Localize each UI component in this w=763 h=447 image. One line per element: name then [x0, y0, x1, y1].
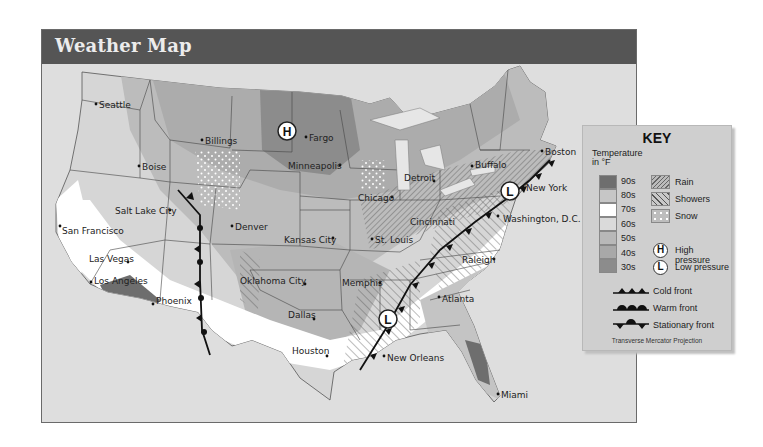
snow-pattern-icon [651, 209, 670, 223]
city-label: Dallas [288, 310, 316, 320]
city-label: Houston [292, 346, 329, 356]
label-90s: 90s [621, 176, 636, 186]
city-label: Denver [235, 222, 268, 232]
city-label: Buffalo [475, 160, 507, 170]
city-label: Fargo [309, 133, 334, 143]
city-label: Atlanta [442, 294, 474, 304]
swatch-90s [599, 175, 617, 189]
label-snow: Snow [675, 211, 698, 221]
city-label: Chicago [358, 193, 395, 203]
high-pressure-center: H [278, 122, 296, 140]
city-label: New York [526, 183, 568, 193]
swatch-70s [599, 203, 617, 217]
swatch-30s [599, 259, 617, 273]
city-label: Salt Lake City [115, 206, 177, 216]
low-pressure-center-northeast: L [501, 182, 519, 200]
svg-text:H: H [283, 125, 292, 139]
swatch-50s [599, 231, 617, 245]
rain-pattern-icon [651, 175, 670, 189]
label-70s: 70s [621, 204, 636, 214]
swatch-60s [599, 217, 617, 231]
label-low-pressure: Low pressure [675, 262, 729, 272]
svg-text:L: L [384, 313, 391, 327]
label-80s: 80s [621, 190, 636, 200]
label-rain: Rain [675, 177, 694, 187]
city-label: Billings [205, 136, 238, 146]
low-pressure-icon: L [653, 260, 668, 275]
city-label: St. Louis [375, 235, 414, 245]
swatch-40s [599, 245, 617, 259]
high-pressure-icon: H [653, 243, 668, 258]
city-label: Minneapolis [288, 161, 342, 171]
city-label: New Orleans [387, 353, 445, 363]
label-30s: 30s [621, 262, 636, 272]
city-label: Miami [501, 390, 528, 400]
city-label: Seattle [99, 100, 131, 110]
city-label: Boston [545, 147, 576, 157]
label-showers: Showers [675, 194, 710, 204]
label-50s: 50s [621, 233, 636, 243]
projection-note: Transverse Mercator Projection [583, 337, 731, 344]
svg-text:L: L [506, 185, 513, 199]
stationary-front-icon [613, 317, 649, 331]
key-temperature-heading: Temperature in °F [592, 149, 652, 167]
key-title: KEY [583, 130, 731, 146]
city-label: Detroit [404, 173, 436, 183]
city-label: Las Vegas [89, 254, 134, 264]
city-label: Kansas City [284, 235, 337, 245]
label-stationary-front: Stationary front [653, 320, 714, 330]
label-60s: 60s [621, 219, 636, 229]
city-label: Raleigh [462, 255, 496, 265]
map-key: KEY Temperature in °F 90s 80s 70s 60s 50… [582, 125, 732, 351]
city-label: Memphis [342, 278, 383, 288]
low-pressure-center-south: L [379, 310, 397, 328]
city-label: Washington, D.C. [503, 214, 581, 224]
city-label: Cincinnati [410, 217, 455, 227]
label-40s: 40s [621, 248, 636, 258]
city-label: Boise [142, 162, 167, 172]
cold-front-icon [613, 285, 649, 295]
label-cold-front: Cold front [653, 286, 692, 296]
city-label: San Francisco [62, 226, 124, 236]
swatch-80s [599, 189, 617, 203]
warm-front-icon [613, 302, 649, 312]
label-warm-front: Warm front [653, 303, 697, 313]
city-label: Oklahoma City [240, 276, 307, 286]
showers-pattern-icon [651, 192, 670, 206]
city-label: Los Angeles [94, 276, 148, 286]
city-label: Phoenix [156, 296, 192, 306]
